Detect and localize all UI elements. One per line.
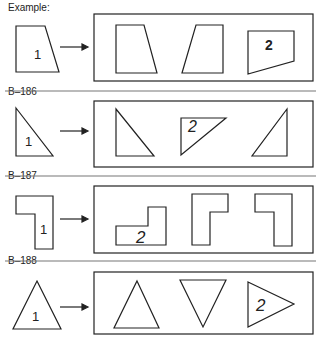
problem-188-row xyxy=(13,272,313,334)
options-box xyxy=(94,14,313,81)
option-c-shape xyxy=(255,194,292,246)
option-c-shape xyxy=(248,282,294,327)
answer-number: 2 xyxy=(136,228,145,248)
problem-186-row xyxy=(16,101,313,167)
given-number: 1 xyxy=(25,134,32,149)
option-a-shape xyxy=(114,281,159,328)
option-c-shape xyxy=(252,109,287,156)
problem-187-row xyxy=(16,186,313,253)
given-l-shape xyxy=(16,196,53,249)
option-a-shape xyxy=(116,109,154,156)
arrow-head-icon xyxy=(82,216,88,222)
answer-number: 2 xyxy=(256,296,265,316)
arrow-head-icon xyxy=(82,304,88,310)
options-box xyxy=(94,186,313,253)
option-a-shape xyxy=(116,25,157,73)
answer-number: 2 xyxy=(265,37,273,53)
given-number: 1 xyxy=(34,47,41,62)
given-number: 1 xyxy=(32,309,39,324)
arrow-head-icon xyxy=(82,44,88,50)
answer-number: 2 xyxy=(188,118,197,136)
arrow-head-icon xyxy=(82,128,88,134)
given-number: 1 xyxy=(40,222,47,237)
given-triangle-shape xyxy=(16,108,53,156)
option-b-shape xyxy=(180,280,226,327)
option-b-shape xyxy=(182,25,223,73)
options-box xyxy=(94,101,313,167)
option-b-shape xyxy=(192,194,228,245)
